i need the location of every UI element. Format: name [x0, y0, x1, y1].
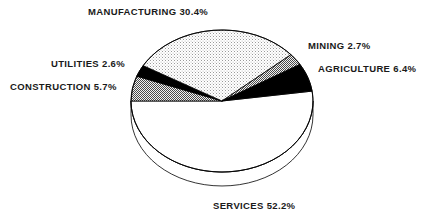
slice-label-construction: CONSTRUCTION 5.7%: [10, 81, 117, 92]
slice-label-services: SERVICES 52.2%: [213, 200, 295, 211]
pie-slice-group: [131, 30, 313, 172]
slice-label-mining: MINING 2.7%: [308, 40, 370, 51]
pie-chart-svg: [0, 0, 432, 221]
slice-label-manufacturing: MANUFACTURING 30.4%: [88, 6, 208, 17]
slice-label-agriculture: AGRICULTURE 6.4%: [318, 63, 416, 74]
slice-label-utilities: UTILITIES 2.6%: [51, 58, 125, 69]
pie-chart-figure: MANUFACTURING 30.4% MINING 2.7% AGRICULT…: [0, 0, 432, 221]
